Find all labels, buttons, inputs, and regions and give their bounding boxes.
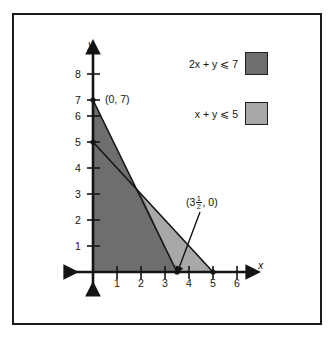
x-tick-label-1: 1 [114,277,120,289]
legend-swatch-x-plus-y-le-5 [245,102,268,125]
x-tick-label-4: 4 [186,277,192,289]
fraction-denominator: 2 [196,202,202,211]
legend-label-2x-plus-y-le-7: 2x + y ⩽ 7 [150,58,238,70]
y-tick-label-1: 1 [75,240,81,252]
y-tick-label-4: 4 [75,162,81,174]
x-tick-label-2: 2 [138,277,144,289]
y-axis-label: y [88,38,93,50]
y-tick-label-7: 7 [75,94,81,106]
x-tick-label-6: 6 [234,277,240,289]
vertex-point-0-7 [90,97,95,102]
fraction-numerator: 1 [196,195,202,203]
vertex-point-0-5 [90,139,95,144]
annotation-prefix: (3 [186,196,195,208]
graph-plot [0,0,335,346]
legend-label-x-plus-y-le-5: x + y ⩽ 5 [150,108,238,120]
annotation-suffix: , 0) [203,196,218,208]
annotation-point-0-7: (0, 7) [105,93,130,105]
legend-swatch-2x-plus-y-le-7 [245,52,268,75]
y-tick-label-8: 8 [75,68,81,80]
region-feasible-overlap [93,142,177,272]
x-tick-label-3: 3 [162,277,168,289]
y-tick-label-6: 6 [75,110,81,122]
y-tick-label-2: 2 [75,214,81,226]
x-axis-label: x [258,259,263,271]
y-tick-label-5: 5 [75,136,81,148]
vertex-point-3half-0 [174,269,179,274]
fraction-one-half: 12 [196,195,202,211]
x-tick-label-5: 5 [210,277,216,289]
annotation-point-3half-0: (312, 0) [186,195,218,211]
y-tick-label-3: 3 [75,188,81,200]
vertex-point-5-0 [210,269,215,274]
figure-container: y x 1 2 3 4 5 6 1 2 3 4 5 6 7 8 (0, 7) (… [0,0,335,346]
